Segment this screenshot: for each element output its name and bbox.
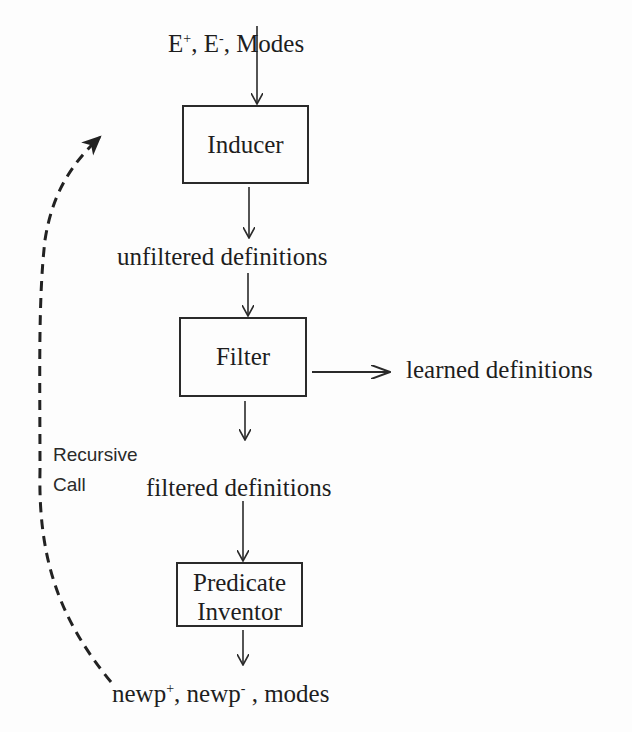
separator: , xyxy=(174,680,187,707)
recursive-call-label: Recursive Call xyxy=(53,440,137,500)
outputs-label: newp+, newp- , modes xyxy=(112,680,329,708)
e-negative: E- xyxy=(204,30,224,57)
newp-negative: newp- xyxy=(187,680,246,707)
newp-positive: newp+ xyxy=(112,680,174,707)
unfiltered-definitions-label: unfiltered definitions xyxy=(117,243,327,271)
e-positive: E+ xyxy=(168,30,191,57)
modes-input: Modes xyxy=(236,30,304,57)
separator: , xyxy=(224,30,237,57)
predicate-inventor-line1: Predicate xyxy=(193,568,286,597)
e-neg-base: E xyxy=(204,30,219,57)
e-pos-base: E xyxy=(168,30,183,57)
recursive-call-line1: Recursive xyxy=(53,440,137,470)
recursive-call-line2: Call xyxy=(53,470,137,500)
filter-node: Filter xyxy=(179,317,307,397)
predicate-inventor-node: Predicate Inventor xyxy=(176,562,303,627)
newp-pos-sup: + xyxy=(166,681,174,696)
separator: , xyxy=(245,680,264,707)
newp-neg-base: newp xyxy=(187,680,241,707)
newp-pos-base: newp xyxy=(112,680,166,707)
predicate-inventor-line2: Inventor xyxy=(197,597,282,626)
modes-output: modes xyxy=(264,680,329,707)
learned-definitions-label: learned definitions xyxy=(406,356,593,384)
inputs-label: E+, E-, Modes xyxy=(168,30,304,58)
e-pos-sup: + xyxy=(183,31,191,46)
filtered-definitions-label: filtered definitions xyxy=(146,474,331,502)
inducer-node: Inducer xyxy=(182,105,309,184)
edge-recursive-call-dashed xyxy=(40,137,111,682)
inducer-label: Inducer xyxy=(207,130,283,160)
separator: , xyxy=(191,30,204,57)
filter-label: Filter xyxy=(216,342,270,372)
